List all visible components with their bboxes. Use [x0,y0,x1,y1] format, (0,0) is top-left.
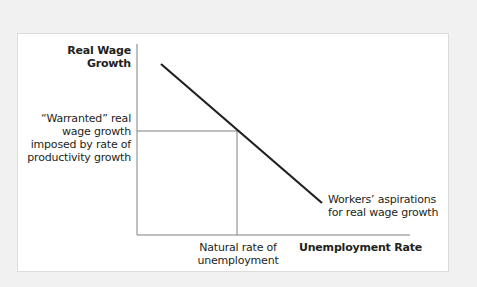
curve-label-line-1: Workers’ aspirations [328,193,438,206]
warranted-label-line-1: “Warranted” real [27,112,131,125]
aspirations-curve [161,64,322,203]
natural-rate-label: Natural rate of unemployment [188,241,288,267]
natural-rate-label-line-2: unemployment [188,254,288,267]
warranted-wage-label: “Warranted” real wage growth imposed by … [27,112,131,164]
x-axis-label-text: Unemployment Rate [299,241,422,254]
y-axis-label-line-2: Growth [67,57,131,70]
curve-label-line-2: for real wage growth [328,206,438,219]
warranted-label-line-3: imposed by rate of [27,138,131,151]
x-axis-label: Unemployment Rate [299,241,422,254]
warranted-label-line-2: wage growth [27,125,131,138]
natural-rate-label-line-1: Natural rate of [188,241,288,254]
curve-label: Workers’ aspirations for real wage growt… [328,193,438,219]
warranted-label-line-4: productivity growth [27,151,131,164]
y-axis-label: Real Wage Growth [67,44,131,70]
y-axis-label-line-1: Real Wage [67,44,131,57]
